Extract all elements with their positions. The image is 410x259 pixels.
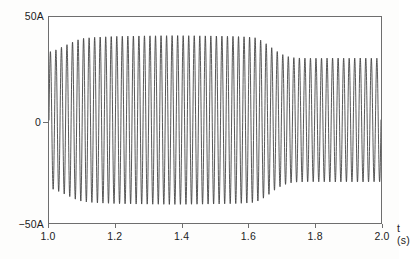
x-axis-tick-label: 1.6 — [228, 230, 268, 242]
current-waveform-trace — [49, 17, 381, 223]
x-axis-tick — [315, 224, 316, 228]
plot-area: t (s) — [48, 16, 382, 224]
y-axis-label-bottom: −50A — [2, 218, 44, 230]
x-axis-tick-label: 1.2 — [95, 230, 135, 242]
x-axis-tick — [182, 224, 183, 228]
x-axis-tick-label: 1.8 — [295, 230, 335, 242]
x-axis-tick — [48, 224, 49, 228]
x-axis-tick — [115, 224, 116, 228]
y-axis-label-top: 50A — [8, 10, 44, 22]
x-axis-tick — [248, 224, 249, 228]
x-axis-tick-label: 1.4 — [162, 230, 202, 242]
x-axis-tick-label: 1.0 — [28, 230, 68, 242]
y-axis-label-zero: 0 — [8, 116, 41, 128]
x-axis-tick-label: 2.0 — [362, 230, 402, 242]
x-axis-tick — [382, 224, 383, 228]
